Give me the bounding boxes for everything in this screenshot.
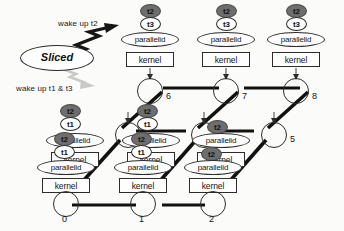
sliced-legend-node: Sliced bbox=[20, 45, 94, 71]
thread-badge-t1-node4[interactable]: t1 bbox=[137, 117, 158, 131]
thread-badge-t1-node3[interactable]: t1 bbox=[60, 117, 81, 131]
parallelid-ellipse-node2: parallelid bbox=[184, 160, 242, 175]
parallelid-ellipse-node8: parallelid bbox=[267, 32, 325, 47]
thread-badge-t2-node8[interactable]: t2 bbox=[286, 4, 307, 18]
thread-badge-t2-node2[interactable]: t2 bbox=[201, 147, 222, 161]
node-number-1: 1 bbox=[139, 214, 144, 224]
thread-badge-t3-node8[interactable]: t3 bbox=[286, 17, 307, 31]
thread-badge-t2-node7[interactable]: t2 bbox=[216, 4, 237, 18]
wake-up-t1-t3-label: wake up t1 & t3 bbox=[16, 84, 73, 93]
parallelid-ellipse-node0: parallelid bbox=[37, 160, 95, 175]
thread-badge-t1-node0[interactable]: t1 bbox=[54, 145, 75, 159]
diagram-canvas: Sliced wake up t2 wake up t1 & t3 t2 t3 … bbox=[0, 0, 344, 231]
kernel-box-node8: kernel bbox=[272, 52, 320, 67]
thread-badge-t2-node3[interactable]: t2 bbox=[60, 104, 81, 118]
node-circle-6[interactable] bbox=[137, 78, 163, 104]
node-number-6: 6 bbox=[166, 91, 171, 101]
thread-badge-t2-node1[interactable]: t2 bbox=[131, 132, 152, 146]
thread-badge-t2-node4[interactable]: t2 bbox=[137, 104, 158, 118]
wake-up-t2-label: wake up t2 bbox=[58, 19, 98, 28]
thread-badge-t2-node5[interactable]: t2 bbox=[207, 120, 228, 134]
node-number-2: 2 bbox=[209, 214, 214, 224]
kernel-box-node6: kernel bbox=[126, 52, 174, 67]
thread-badge-t1-node1[interactable]: t1 bbox=[131, 145, 152, 159]
thread-badge-t3-node7[interactable]: t3 bbox=[216, 17, 237, 31]
node-circle-8[interactable] bbox=[283, 78, 309, 104]
node-circle-7[interactable] bbox=[213, 78, 239, 104]
parallelid-ellipse-node6: parallelid bbox=[121, 32, 179, 47]
kernel-box-node7: kernel bbox=[202, 52, 250, 67]
thread-badge-t3-node6[interactable]: t3 bbox=[140, 17, 161, 31]
node-number-7: 7 bbox=[242, 91, 247, 101]
node-number-8: 8 bbox=[312, 91, 317, 101]
node-number-0: 0 bbox=[62, 214, 67, 224]
node-circle-5[interactable] bbox=[261, 122, 287, 148]
parallelid-ellipse-node5: parallelid bbox=[192, 133, 250, 148]
node-number-5: 5 bbox=[290, 134, 295, 144]
thread-badge-t2-node0[interactable]: t2 bbox=[54, 132, 75, 146]
thread-badge-t2-node6[interactable]: t2 bbox=[140, 4, 161, 18]
parallelid-ellipse-node1: parallelid bbox=[114, 160, 172, 175]
parallelid-ellipse-node7: parallelid bbox=[197, 32, 255, 47]
